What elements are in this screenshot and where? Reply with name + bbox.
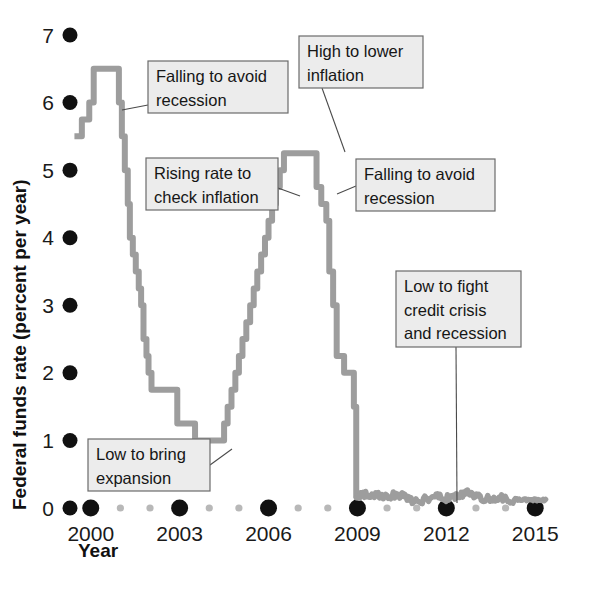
annotation-high-to-lower-inflation: High to lowerinflation [299, 36, 423, 152]
y-tick-label: 6 [42, 91, 54, 114]
x-tick-dot-minor [324, 504, 331, 511]
x-tick-dot-major [260, 500, 277, 517]
x-tick-dot-minor [472, 504, 479, 511]
x-tick-label: 2003 [156, 522, 203, 545]
annotation-rising-rate-to-check-inflation: Rising rate tocheck inflation [146, 158, 300, 210]
y-tick-label: 5 [42, 159, 54, 182]
y-axis-title: Federal funds rate (percent per year) [9, 180, 30, 511]
x-tick-dot-minor [502, 504, 509, 511]
y-tick-dot [63, 163, 78, 178]
x-tick-dot-minor [295, 504, 302, 511]
y-tick-label: 7 [42, 24, 54, 47]
chart-figure: 01234567 200020032006200920122015 Fallin… [0, 0, 589, 593]
fed-funds-zero-bound-noise [356, 490, 545, 504]
annotation-falling-to-avoid-recession-2007: Falling to avoidrecession [337, 159, 495, 211]
x-tick-dot-major [171, 500, 188, 517]
x-tick-dot-major [349, 500, 366, 517]
y-tick-dot [63, 230, 78, 245]
annotation-text-line: High to lower [307, 42, 404, 60]
annotation-text-line: Falling to avoid [156, 67, 267, 85]
y-tick-dot [63, 501, 78, 516]
annotation-text-line: Low to bring [96, 445, 186, 463]
annotation-leader-line [337, 186, 356, 194]
annotation-text-line: expansion [96, 469, 171, 487]
x-axis-tick-labels: 200020032006200920122015 [67, 522, 558, 545]
x-tick-label: 2012 [423, 522, 470, 545]
annotation-text-line: and recession [404, 324, 507, 342]
x-tick-dot-minor [383, 504, 390, 511]
y-tick-label: 2 [42, 361, 54, 384]
annotation-leader-line [322, 88, 345, 152]
annotation-leader-line [278, 188, 300, 196]
y-tick-label: 0 [42, 497, 54, 520]
annotation-text-line: inflation [307, 66, 364, 84]
annotation-text-line: Falling to avoid [364, 165, 475, 183]
annotation-text-line: recession [156, 91, 227, 109]
x-tick-label: 2015 [512, 522, 559, 545]
x-tick-dot-minor [235, 504, 242, 511]
federal-funds-rate-chart: 01234567 200020032006200920122015 Fallin… [0, 0, 589, 593]
x-tick-label: 2009 [334, 522, 381, 545]
x-tick-dot-minor [206, 504, 213, 511]
annotation-falling-to-avoid-recession-2001: Falling to avoidrecession [122, 61, 288, 113]
y-axis-ticks: 01234567 [42, 24, 77, 520]
fed-funds-step-line [74, 69, 356, 498]
annotation-text-line: recession [364, 189, 435, 207]
x-tick-label: 2006 [245, 522, 292, 545]
y-tick-dot [63, 365, 78, 380]
annotation-low-to-fight-credit-crisis-and-recession: Low to fightcredit crisisand recession [396, 271, 521, 503]
y-tick-label: 4 [42, 226, 54, 249]
x-tick-dot-major [82, 500, 99, 517]
annotation-leader-line [210, 449, 232, 465]
annotation-leader-line [122, 105, 148, 110]
annotation-leader-line [456, 347, 457, 503]
y-tick-dot [63, 433, 78, 448]
y-tick-dot [63, 28, 78, 43]
y-tick-label: 3 [42, 294, 54, 317]
annotation-text-line: Low to fight [404, 277, 489, 295]
x-axis-title: Year [78, 540, 119, 561]
y-tick-dot [63, 95, 78, 110]
x-tick-dot-minor [146, 504, 153, 511]
annotation-text-line: Rising rate to [154, 164, 251, 182]
y-tick-label: 1 [42, 429, 54, 452]
y-tick-dot [63, 298, 78, 313]
annotation-text-line: credit crisis [404, 301, 487, 319]
annotation-text-line: check inflation [154, 188, 259, 206]
x-axis-ticks [82, 500, 543, 517]
annotation-low-to-bring-expansion: Low to bringexpansion [88, 439, 232, 491]
x-tick-dot-minor [413, 504, 420, 511]
x-tick-dot-minor [117, 504, 124, 511]
annotation-callouts: Falling to avoidrecessionRising rate toc… [88, 36, 521, 503]
